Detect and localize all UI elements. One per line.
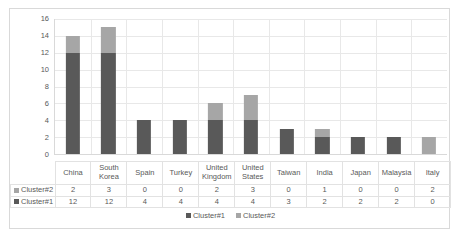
stacked-bar[interactable] [208,103,222,154]
table-corner-cell [11,162,56,185]
bar-segment-cluster1[interactable] [137,120,151,154]
bar-slot [55,19,91,154]
value-cell-cluster1: 0 [415,196,451,208]
bar-series-group [55,19,447,154]
y-axis-tick-label: 16 [41,15,49,23]
stacked-bar[interactable] [66,36,80,154]
bar-slot [162,19,198,154]
y-axis: 1614121086420 [10,19,52,155]
data-table: ChinaSouth KoreaSpainTurkeyUnited Kingdo… [10,161,451,208]
category-header-cell: China [55,162,91,185]
value-cell-cluster2: 1 [307,185,343,197]
y-axis-tick-label: 2 [45,134,49,142]
bar-segment-cluster2[interactable] [208,103,222,120]
value-cell-cluster1: 12 [91,196,127,208]
bar-slot [91,19,127,154]
y-axis-tick-label: 6 [45,100,49,108]
swatch-cluster2-icon [14,188,19,193]
table-row-cluster1: Cluster#1 1212444432220 [11,196,451,208]
bar-segment-cluster1[interactable] [280,129,294,154]
category-header-cell: Italy [415,162,451,185]
legend-label: Cluster#2 [243,211,275,220]
stacked-bar[interactable] [422,137,436,154]
value-cell-cluster1: 3 [271,196,307,208]
value-cell-cluster1: 4 [163,196,199,208]
category-header-cell: Malaysia [379,162,415,185]
row-header-cluster2: Cluster#2 [11,185,56,197]
bar-slot [376,19,412,154]
y-axis-tick-label: 8 [45,83,49,91]
bar-slot [233,19,269,154]
stacked-bar[interactable] [351,137,365,154]
bar-segment-cluster1[interactable] [351,137,365,154]
stacked-bar[interactable] [386,137,400,154]
bar-slot [411,19,447,154]
value-cell-cluster2: 3 [235,185,271,197]
legend-swatch-icon [186,213,191,218]
value-cell-cluster2: 0 [271,185,307,197]
legend-entry[interactable]: Cluster#1 [186,211,225,220]
category-header-cell: United Kingdom [199,162,235,185]
stacked-bar[interactable] [244,95,258,154]
value-cell-cluster2: 0 [127,185,163,197]
y-axis-tick-label: 10 [41,66,49,74]
stacked-bar[interactable] [101,27,115,154]
value-cell-cluster2: 0 [343,185,379,197]
value-cell-cluster1: 4 [235,196,271,208]
plot-area [54,19,447,155]
value-cell-cluster1: 12 [55,196,91,208]
bar-segment-cluster1[interactable] [208,120,222,154]
value-cell-cluster2: 0 [379,185,415,197]
bar-slot [126,19,162,154]
bar-segment-cluster1[interactable] [386,137,400,154]
stacked-bar[interactable] [173,120,187,154]
stacked-bar[interactable] [280,129,294,154]
category-header-cell: Taiwan [271,162,307,185]
bar-segment-cluster1[interactable] [315,137,329,154]
row-header-cluster1-label: Cluster#1 [21,197,53,206]
value-cell-cluster1: 4 [127,196,163,208]
category-header-cell: Japan [343,162,379,185]
table-row-categories: ChinaSouth KoreaSpainTurkeyUnited Kingdo… [11,162,451,185]
category-header-cell: India [307,162,343,185]
category-header-cell: Turkey [163,162,199,185]
category-header-cell: United States [235,162,271,185]
y-axis-tick-label: 12 [41,49,49,57]
stacked-bar[interactable] [315,129,329,154]
bar-slot [198,19,234,154]
bar-segment-cluster2[interactable] [66,36,80,53]
chart-legend: Cluster#1Cluster#2 [10,211,451,220]
value-cell-cluster1: 4 [199,196,235,208]
table-row-cluster2: Cluster#2 23002301002 [11,185,451,197]
bar-segment-cluster1[interactable] [244,120,258,154]
value-cell-cluster1: 2 [379,196,415,208]
bar-segment-cluster1[interactable] [66,53,80,154]
y-axis-tick-label: 0 [45,151,49,159]
bar-segment-cluster1[interactable] [173,120,187,154]
plot-region: 1614121086420 [10,13,451,161]
y-axis-tick-label: 4 [45,117,49,125]
legend-entry[interactable]: Cluster#2 [236,211,275,220]
value-cell-cluster1: 2 [307,196,343,208]
bar-segment-cluster2[interactable] [101,27,115,52]
bar-segment-cluster2[interactable] [315,129,329,137]
bar-segment-cluster1[interactable] [101,53,115,154]
category-header-cell: South Korea [91,162,127,185]
value-cell-cluster2: 3 [91,185,127,197]
swatch-cluster1-icon [14,199,19,204]
value-cell-cluster2: 2 [415,185,451,197]
stacked-bar[interactable] [137,120,151,154]
row-header-cluster2-label: Cluster#2 [21,185,53,194]
value-cell-cluster1: 2 [343,196,379,208]
row-header-cluster1: Cluster#1 [11,196,56,208]
legend-swatch-icon [236,213,241,218]
bar-slot [269,19,305,154]
value-cell-cluster2: 2 [199,185,235,197]
value-cell-cluster2: 0 [163,185,199,197]
y-axis-tick-label: 14 [41,32,49,40]
bar-slot [340,19,376,154]
bar-segment-cluster2[interactable] [244,95,258,120]
chart-container: 1614121086420 ChinaSouth KoreaSpainTurke… [9,8,450,229]
bar-segment-cluster2[interactable] [422,137,436,154]
category-header-cell: Spain [127,162,163,185]
